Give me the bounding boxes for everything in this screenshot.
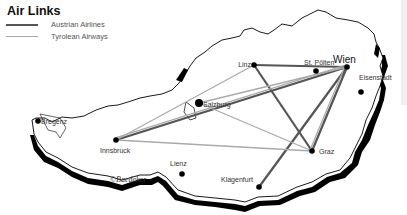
city-label-lienz: Lienz [170, 160, 187, 167]
city-marker-linz [251, 62, 257, 68]
city-marker-innsbruck [113, 137, 119, 143]
legend-title: Air Links [7, 4, 108, 18]
city-label-bregenz: Bregenz [41, 118, 68, 126]
city-marker-lienz [179, 171, 185, 177]
city-label-innsbruck: Innsbruck [100, 147, 131, 154]
legend-swatch-light [6, 36, 38, 37]
map-credit: ©Baedeker [110, 175, 147, 184]
city-marker-wien [344, 64, 350, 70]
city-marker-graz [309, 148, 315, 154]
legend-item-tyrolean: Tyrolean Airways [6, 31, 108, 42]
city-label-eisenstadt: Eisenstadt [359, 74, 392, 81]
city-label-klagenfurt: Klagenfurt [221, 176, 253, 184]
city-label-wien: Wien [333, 54, 356, 65]
legend-label: Austrian Airlines [51, 20, 105, 29]
city-marker-bregenz [35, 118, 41, 124]
scrollbar[interactable] [401, 0, 407, 105]
legend-item-austrian: Austrian Airlines [6, 19, 108, 30]
city-marker-salzburg [195, 99, 203, 107]
legend-label: Tyrolean Airways [51, 32, 108, 41]
city-label-graz: Graz [319, 148, 335, 155]
city-label-salzburg: Salzburg [203, 101, 231, 109]
city-label-linz: Linz [238, 61, 251, 68]
legend: Air Links Austrian Airlines Tyrolean Air… [6, 4, 108, 42]
city-marker-klagenfurt [256, 184, 262, 190]
city-label-st-poelten: St. Pölten [304, 59, 334, 66]
city-marker-st-poelten [313, 68, 319, 74]
legend-swatch-dark [6, 24, 38, 26]
city-marker-eisenstadt [358, 89, 364, 95]
